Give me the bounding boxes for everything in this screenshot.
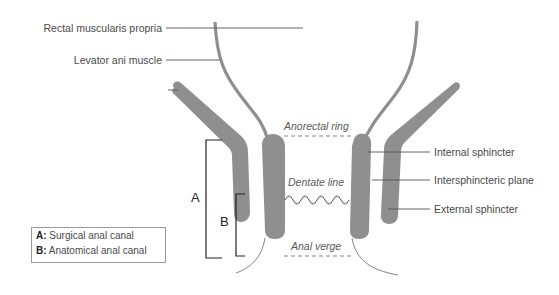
- bracket-a-label: A: [191, 190, 200, 205]
- dentate-line: [285, 196, 349, 204]
- internal-sphincter-left: [262, 134, 285, 239]
- legend-item-b: B: Anatomical anal canal: [32, 243, 165, 258]
- dentate-line-label: Dentate line: [288, 176, 344, 188]
- anal-verge-label: Anal verge: [290, 240, 341, 252]
- legend: A: Surgical anal canal B: Anatomical ana…: [31, 227, 166, 263]
- external-sphincter-label: External sphincter: [434, 203, 519, 215]
- legend-key-a: A:: [36, 230, 47, 241]
- internal-sphincter-label: Internal sphincter: [434, 146, 515, 158]
- legend-key-b: B:: [36, 245, 47, 256]
- intersphincteric-plane-label: Intersphincteric plane: [434, 174, 534, 186]
- rectal-muscularis-label: Rectal muscularis propria: [44, 22, 163, 34]
- bracket-a: [206, 140, 222, 258]
- legend-item-a: A: Surgical anal canal: [32, 228, 165, 243]
- legend-text-b: Anatomical anal canal: [47, 245, 147, 256]
- internal-sphincter-right: [350, 134, 371, 239]
- levator-ani-left: [172, 82, 250, 222]
- bracket-b-label: B: [220, 214, 229, 229]
- levator-ani-label: Levator ani muscle: [74, 54, 162, 66]
- skin-line-right: [352, 238, 398, 275]
- anorectal-ring-label: Anorectal ring: [283, 120, 349, 132]
- legend-text-a: Surgical anal canal: [47, 230, 134, 241]
